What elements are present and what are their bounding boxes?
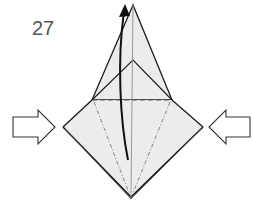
push-arrow-left-icon bbox=[13, 110, 55, 144]
arrowhead-icon bbox=[119, 4, 130, 17]
push-arrow-right-icon bbox=[209, 110, 250, 144]
origami-diagram bbox=[0, 0, 253, 206]
